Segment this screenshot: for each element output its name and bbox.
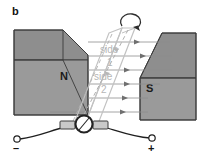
side-2-label-text: side xyxy=(94,71,113,82)
positive-terminal-label: + xyxy=(148,142,154,154)
right-brush xyxy=(93,121,108,129)
negative-terminal-label: – xyxy=(13,142,19,154)
left-brush xyxy=(60,121,75,129)
left-magnet-pole-label: N xyxy=(60,70,68,82)
left-magnet-front-face xyxy=(14,60,88,115)
panel-label: b xyxy=(12,5,19,17)
positive-terminal-node xyxy=(149,135,155,141)
motor-diagram-svg: b N S xyxy=(0,0,205,160)
side-1-label-text: side xyxy=(100,44,119,55)
side-1-label-number: 1 xyxy=(107,57,113,68)
figure-panel-b: b N S xyxy=(0,0,205,160)
side-2-label-number: 2 xyxy=(101,84,107,95)
